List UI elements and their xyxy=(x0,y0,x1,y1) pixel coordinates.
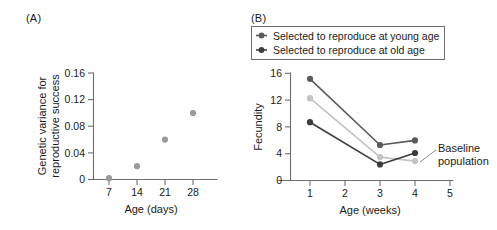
data-point xyxy=(412,137,418,143)
panel-b-ytick-2: 8 xyxy=(276,121,282,133)
panel-b-xtick-3: 4 xyxy=(412,187,418,199)
panel-b-xtick-0: 1 xyxy=(307,187,313,199)
panel-a-xtick-0: 7 xyxy=(106,186,112,198)
legend-label-young-age: Selected to reproduce at young age xyxy=(273,30,440,42)
panel-b-xtick-4: 5 xyxy=(447,187,453,199)
legend-label-old-age: Selected to reproduce at old age xyxy=(273,44,425,56)
panel-a-y-axis-title-line2: reproductive success xyxy=(49,74,61,178)
panel-b-chart: Selected to reproduce at young age Selec… xyxy=(240,0,497,230)
panel-b-ytick-0: 0 xyxy=(276,174,282,186)
annotation-label-line2: population xyxy=(438,155,489,167)
data-point xyxy=(190,110,196,116)
panel-a-x-axis-title: Age (days) xyxy=(124,203,177,215)
panel-b-y-axis-title: Fecundity xyxy=(252,103,264,151)
data-point xyxy=(307,119,313,125)
panel-a: (A) 0 0.04 0.08 0.12 0.16 xyxy=(0,0,240,230)
annotation-leader-line xyxy=(420,150,436,162)
panel-a-ytick-1: 0.04 xyxy=(65,147,86,159)
data-point xyxy=(377,161,383,167)
series-path xyxy=(310,98,415,161)
panel-b-x-axis-title: Age (weeks) xyxy=(339,204,400,216)
legend-item-old-age[interactable]: Selected to reproduce at old age xyxy=(256,44,425,56)
panel-a-xtick-2: 21 xyxy=(159,186,171,198)
panel-a-xtick-1: 14 xyxy=(131,186,143,198)
data-point xyxy=(412,150,418,156)
data-point xyxy=(412,158,418,164)
panel-b-ytick-1: 4 xyxy=(276,147,282,159)
panel-a-y-ticks: 0 0.04 0.08 0.12 0.16 xyxy=(65,67,94,185)
panel-a-data-points xyxy=(106,110,196,181)
legend-point-marker xyxy=(259,47,265,53)
panel-b-y-ticks: 0 4 8 12 16 xyxy=(270,67,290,186)
panel-a-ytick-3: 0.12 xyxy=(65,93,86,105)
panel-b: (B) Selected to reproduce at young age S… xyxy=(240,0,497,230)
panel-a-chart: 0 0.04 0.08 0.12 0.16 7 14 21 28 Age (da… xyxy=(0,0,240,230)
series-selected-young-age xyxy=(307,76,418,148)
panel-a-ytick-4: 0.16 xyxy=(65,67,86,79)
data-point xyxy=(162,137,168,143)
panel-a-ytick-2: 0.08 xyxy=(65,120,86,132)
annotation-baseline-population: Baseline population xyxy=(420,142,489,167)
panel-a-label: (A) xyxy=(26,12,41,24)
panel-a-ytick-0: 0 xyxy=(79,173,85,185)
data-point xyxy=(307,76,313,82)
panel-b-xtick-2: 3 xyxy=(377,187,383,199)
data-point xyxy=(377,142,383,148)
panel-b-ytick-4: 16 xyxy=(270,67,282,79)
data-point xyxy=(377,154,383,160)
legend-item-young-age[interactable]: Selected to reproduce at young age xyxy=(256,30,440,42)
panel-b-xtick-1: 2 xyxy=(342,187,348,199)
panel-b-legend: Selected to reproduce at young age Selec… xyxy=(252,27,445,60)
panel-b-x-ticks: 1 2 3 4 5 xyxy=(307,181,453,200)
data-point xyxy=(307,95,313,101)
annotation-label-line1: Baseline xyxy=(438,142,480,154)
legend-point-marker xyxy=(259,33,265,39)
data-point xyxy=(134,163,140,169)
panel-a-xtick-3: 28 xyxy=(187,186,199,198)
panel-a-x-ticks: 7 14 21 28 xyxy=(106,180,199,199)
figure-container: (A) 0 0.04 0.08 0.12 0.16 xyxy=(0,0,497,230)
panel-b-ytick-3: 12 xyxy=(270,94,282,106)
data-point xyxy=(106,175,112,181)
panel-b-label: (B) xyxy=(251,12,266,24)
panel-a-y-axis-title-line1: Genetic variance for xyxy=(36,76,48,175)
